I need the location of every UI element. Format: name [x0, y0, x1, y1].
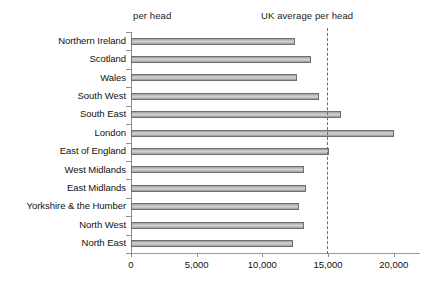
x-axis-tick-label: 5,000 — [185, 259, 209, 270]
bar-row — [131, 32, 420, 50]
bar-row — [131, 87, 420, 105]
bar-row — [131, 216, 420, 234]
y-axis-label: Scotland — [4, 53, 126, 64]
bar — [131, 38, 295, 45]
bar — [131, 148, 329, 155]
bar-row — [131, 50, 420, 68]
y-axis-label: North West — [4, 219, 126, 230]
bar — [131, 222, 304, 229]
y-axis-tick — [126, 106, 131, 107]
y-axis-tick — [126, 87, 131, 88]
y-axis-label: South East — [4, 108, 126, 119]
bar — [131, 111, 341, 118]
annotation-per-head: per head — [133, 10, 171, 21]
y-axis-label: Yorkshire & the Humber — [4, 200, 126, 211]
y-axis-tick — [126, 143, 131, 144]
y-axis-label: East of England — [4, 145, 126, 156]
bar — [131, 56, 311, 63]
y-axis-tick — [126, 198, 131, 199]
x-axis-line — [131, 253, 420, 254]
y-axis-label: North East — [4, 237, 126, 248]
y-axis-tick — [126, 161, 131, 162]
x-axis-tick — [131, 253, 132, 257]
uk-average-reference-line — [327, 28, 328, 254]
y-axis-tick — [126, 50, 131, 51]
y-axis-tick — [126, 235, 131, 236]
bar-row — [131, 106, 420, 124]
bar-row — [131, 69, 420, 87]
y-axis-label: Wales — [4, 72, 126, 83]
y-axis-label: East Midlands — [4, 182, 126, 193]
x-axis-tick-label: 15,000 — [314, 259, 343, 270]
bar-row — [131, 179, 420, 197]
bar-row — [131, 161, 420, 179]
y-axis-label: London — [4, 127, 126, 138]
bar-row — [131, 143, 420, 161]
x-axis-tick — [328, 253, 329, 257]
x-axis-tick-label: 20,000 — [379, 259, 408, 270]
bar — [131, 185, 306, 192]
y-axis-tick — [126, 216, 131, 217]
x-axis-tick — [197, 253, 198, 257]
x-axis-tick — [262, 253, 263, 257]
plot-area — [131, 32, 420, 253]
bar-chart: per head UK average per head Northern Ir… — [0, 0, 424, 283]
x-axis-tick-label: 0 — [128, 259, 133, 270]
bar — [131, 240, 293, 247]
y-axis-label: Northern Ireland — [4, 35, 126, 46]
annotation-uk-average-per-head: UK average per head — [261, 10, 353, 21]
y-axis-label: South West — [4, 90, 126, 101]
bar — [131, 130, 394, 137]
bar — [131, 93, 319, 100]
y-axis-tick — [126, 124, 131, 125]
y-axis-category-labels: Northern IrelandScotlandWalesSouth WestS… — [0, 32, 126, 253]
bar — [131, 166, 304, 173]
x-axis-tick-label: 10,000 — [248, 259, 277, 270]
bar — [131, 203, 299, 210]
y-axis-tick — [126, 179, 131, 180]
y-axis-label: West Midlands — [4, 164, 126, 175]
bar-row — [131, 235, 420, 253]
y-axis-tick — [126, 32, 131, 33]
bar-row — [131, 124, 420, 142]
bar — [131, 74, 297, 81]
x-axis-tick — [394, 253, 395, 257]
y-axis-tick — [126, 69, 131, 70]
bar-row — [131, 198, 420, 216]
